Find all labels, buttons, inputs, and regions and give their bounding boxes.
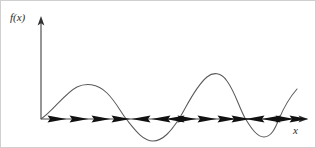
- flow-arrow-left: [132, 115, 151, 122]
- y-axis-label: f(x): [10, 11, 25, 23]
- y-axis: [38, 16, 45, 119]
- plot-canvas: [1, 1, 316, 148]
- y-axis-label-text: f(x): [10, 11, 25, 23]
- function-flow-diagram: f(x) x: [0, 0, 316, 148]
- flow-arrow-right: [92, 115, 111, 122]
- function-curve: [41, 74, 297, 141]
- flow-arrow-right: [290, 115, 309, 122]
- flow-arrow-right: [48, 115, 67, 122]
- x-axis-label: x: [293, 124, 298, 136]
- flow-arrow-right: [198, 115, 217, 122]
- flow-arrow-right: [178, 115, 197, 122]
- flow-arrow-right: [70, 115, 89, 122]
- flow-arrow-group: [48, 115, 309, 122]
- x-axis-label-text: x: [293, 124, 298, 136]
